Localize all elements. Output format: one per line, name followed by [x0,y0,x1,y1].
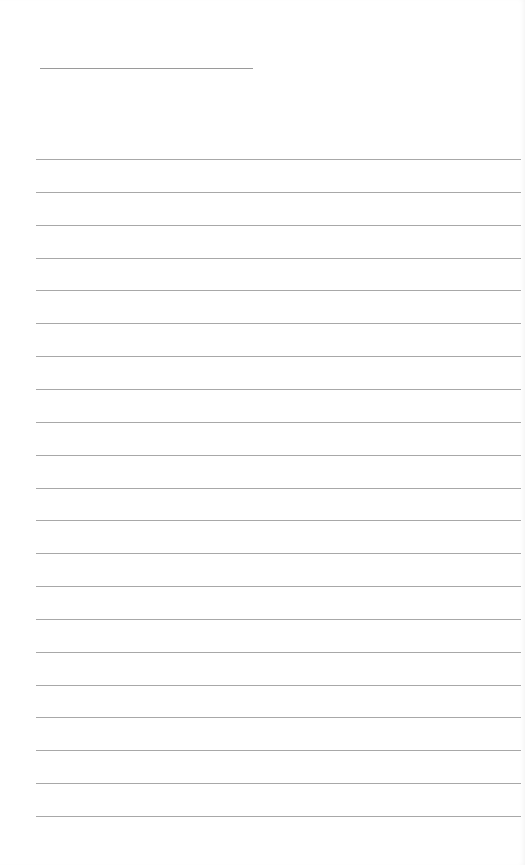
header-line [40,68,253,69]
ruled-line [36,783,521,784]
ruled-line [36,619,521,620]
ruled-line [36,685,521,686]
ruled-line [36,422,521,423]
ruled-line [36,816,521,817]
ruled-line [36,159,521,160]
lined-paper-sheet [0,0,525,865]
ruled-line [36,258,521,259]
ruled-line [36,290,521,291]
ruled-line [36,717,521,718]
ruled-line [36,225,521,226]
ruled-line [36,323,521,324]
ruled-line [36,586,521,587]
ruled-line [36,750,521,751]
ruled-line [36,652,521,653]
ruled-line [36,520,521,521]
ruled-line [36,488,521,489]
ruled-line [36,455,521,456]
ruled-line [36,553,521,554]
ruled-line [36,389,521,390]
ruled-line [36,356,521,357]
ruled-line [36,192,521,193]
